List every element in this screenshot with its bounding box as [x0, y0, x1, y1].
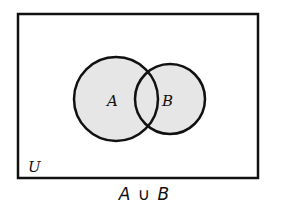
universe-label: U — [28, 158, 42, 176]
venn-diagram: A B U — [0, 0, 283, 208]
diagram-caption: A ∪ B — [0, 184, 283, 204]
set-a-label: A — [105, 92, 118, 110]
set-b-label: B — [161, 92, 173, 110]
